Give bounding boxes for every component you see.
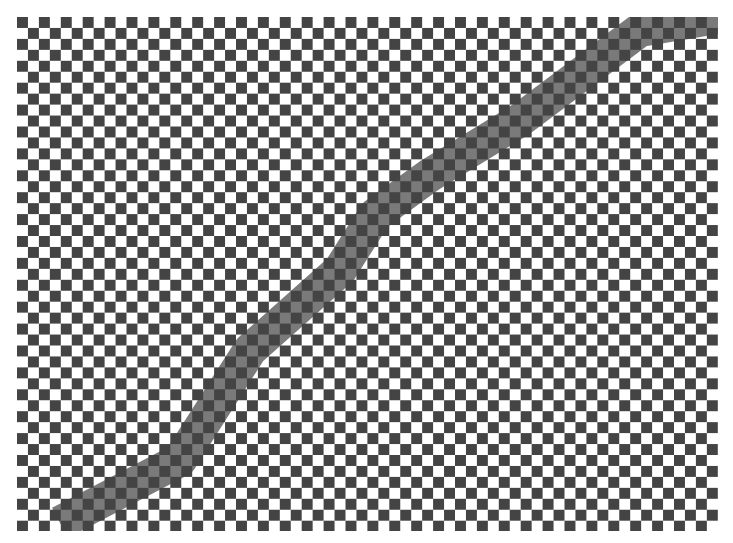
checkerboard-graphic [17, 17, 718, 531]
checkerboard [17, 17, 718, 531]
